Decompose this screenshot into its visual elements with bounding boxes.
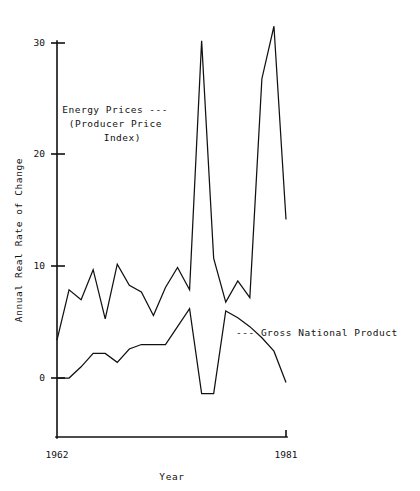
energy-prices-label-line1: Energy Prices --- <box>62 104 168 115</box>
chart-canvas: 30 20 10 0 1962 1981 Year Annual Real Ra… <box>0 0 420 491</box>
series-gross-national-product <box>57 309 286 394</box>
y-axis-title: Annual Real Rate of Change <box>13 158 24 322</box>
series-energy-prices <box>57 26 286 340</box>
energy-prices-label-line2: (Producer Price <box>69 118 162 129</box>
gnp-label-line1: --- Gross National Product <box>236 327 398 338</box>
y-tick-label-20: 20 <box>34 148 46 159</box>
x-axis-title: Year <box>159 471 184 482</box>
x-tick-label-1981: 1981 <box>275 449 298 460</box>
gnp-annotation: --- Gross National Product <box>236 327 398 338</box>
y-tick-label-10: 10 <box>34 260 46 271</box>
energy-prices-annotation: Energy Prices --- (Producer Price Index) <box>62 104 168 143</box>
energy-prices-label-line3: Index) <box>104 132 141 143</box>
y-tick-label-0: 0 <box>39 372 45 383</box>
y-tick-label-30: 30 <box>34 37 46 48</box>
axis-group <box>51 41 287 438</box>
line-chart: 30 20 10 0 1962 1981 Year Annual Real Ra… <box>0 0 420 491</box>
x-tick-label-1962: 1962 <box>46 449 69 460</box>
